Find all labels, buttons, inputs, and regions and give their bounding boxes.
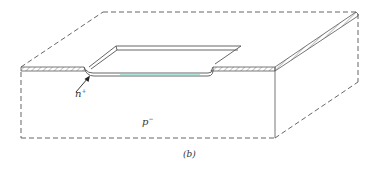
n-plus-label: n+ [75, 88, 86, 99]
figure-caption: (b) [183, 150, 196, 159]
left-top-diagonal [21, 12, 103, 67]
n-plus-region [84, 67, 213, 76]
hidden-edges [21, 12, 358, 138]
p-minus-label: p− [142, 116, 153, 127]
window-back-edge [89, 46, 241, 67]
right-bottom-diagonal [275, 82, 358, 138]
oxide-side-slab [275, 12, 358, 71]
oxide-left-slab [21, 67, 86, 71]
window-back-inner-edge [91, 50, 238, 69]
oxide-right-slab [211, 67, 275, 71]
oxide-window [89, 46, 241, 69]
